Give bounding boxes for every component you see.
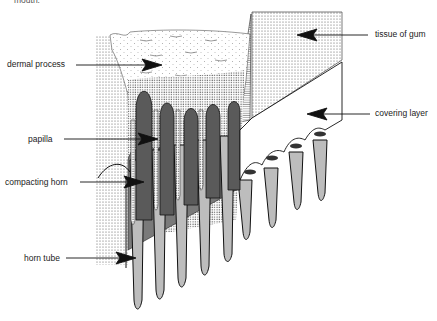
label-compacting-horn: compacting horn [5,178,68,187]
label-dermal-process: dermal process [7,60,65,69]
horn-structure-diagram [0,0,437,321]
label-tissue-of-gum: tissue of gum [375,30,426,39]
label-papilla: papilla [28,135,53,144]
label-covering-layer: covering layer [375,109,428,118]
label-horn-tube: horn tube [24,254,60,263]
